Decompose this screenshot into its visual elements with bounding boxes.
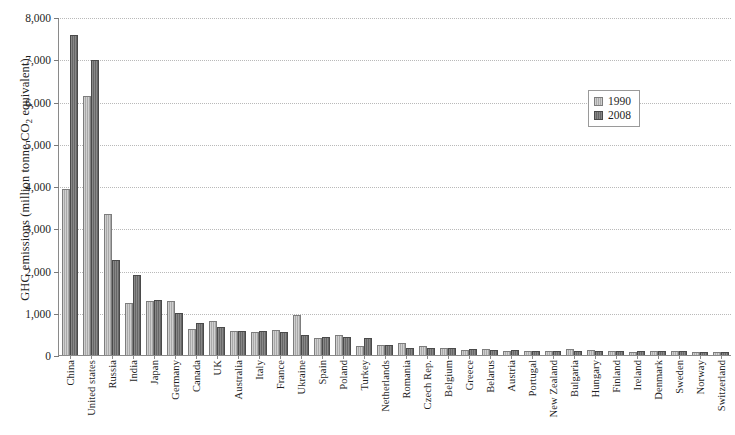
x-axis-label: Spain bbox=[316, 360, 327, 384]
bar-2008 bbox=[70, 35, 78, 355]
y-axis-tick-label: 8,000 bbox=[25, 12, 51, 24]
x-axis-label-cell: Switzerland bbox=[711, 358, 732, 434]
bar-group bbox=[626, 18, 647, 355]
bar-2008 bbox=[574, 351, 582, 355]
bar-1990 bbox=[545, 351, 553, 355]
bar-1990 bbox=[566, 349, 574, 355]
bar-1990 bbox=[251, 332, 259, 355]
bar-series-container bbox=[59, 18, 731, 355]
y-axis-tick-label: 5,000 bbox=[25, 139, 51, 151]
bar-group bbox=[542, 18, 563, 355]
plot-area: 8,0007,0006,0005,0004,0003,0002,0001,000… bbox=[58, 18, 731, 356]
bar-2008 bbox=[259, 331, 267, 355]
x-axis-label: Germany bbox=[169, 360, 180, 400]
x-axis-label-cell: Poland bbox=[332, 358, 353, 434]
bar-1990 bbox=[356, 346, 364, 355]
x-axis-label-cell: New Zealand bbox=[543, 358, 564, 434]
x-axis-label-cell: Portugal bbox=[522, 358, 543, 434]
legend-swatch-2008-icon bbox=[594, 111, 603, 120]
x-axis-label-cell: Greece bbox=[459, 358, 480, 434]
bar-group bbox=[80, 18, 101, 355]
bar-1990 bbox=[692, 352, 700, 355]
x-axis-label: Belgium bbox=[443, 360, 454, 397]
x-axis-label-cell: Denmark bbox=[648, 358, 669, 434]
x-axis-label: Romania bbox=[401, 360, 412, 399]
bar-2008 bbox=[448, 348, 456, 355]
x-axis-label-cell: Belgium bbox=[438, 358, 459, 434]
bar-1990 bbox=[335, 335, 343, 355]
x-axis-label-cell: Ireland bbox=[627, 358, 648, 434]
x-axis-label: Italy bbox=[253, 360, 264, 380]
bar-1990 bbox=[314, 338, 322, 355]
bar-1990 bbox=[440, 348, 448, 355]
bar-1990 bbox=[188, 329, 196, 355]
bar-group bbox=[311, 18, 332, 355]
bar-1990 bbox=[230, 331, 238, 355]
chart-legend: 1990 2008 bbox=[588, 90, 640, 127]
x-axis-label: Switzerland bbox=[716, 360, 727, 411]
x-axis-label-cell: Japan bbox=[143, 358, 164, 434]
x-axis-label-cell: United states bbox=[80, 358, 101, 434]
x-axis-label: Bulgaria bbox=[569, 360, 580, 397]
bar-group bbox=[269, 18, 290, 355]
y-axis-tick-label: 7,000 bbox=[25, 54, 51, 66]
x-axis-label-cell: Czech Rep. bbox=[417, 358, 438, 434]
y-axis-tick-label: 3,000 bbox=[25, 223, 51, 235]
bar-group bbox=[248, 18, 269, 355]
bar-2008 bbox=[553, 351, 561, 355]
legend-label-1990: 1990 bbox=[608, 94, 631, 108]
y-axis-title-subscript: 2 bbox=[24, 119, 34, 124]
bar-1990 bbox=[83, 96, 91, 355]
bar-2008 bbox=[406, 348, 414, 355]
x-axis-label-cell: Sweden bbox=[669, 358, 690, 434]
bar-1990 bbox=[209, 321, 217, 355]
x-axis-label: Norway bbox=[695, 360, 706, 394]
x-axis-label-cell: Netherlands bbox=[374, 358, 395, 434]
legend-swatch-1990-icon bbox=[594, 97, 603, 106]
y-axis-tick-label: 0 bbox=[45, 350, 51, 362]
bar-group bbox=[59, 18, 80, 355]
x-axis-label-cell: Belarus bbox=[480, 358, 501, 434]
x-axis-label-cell: Finland bbox=[606, 358, 627, 434]
bar-group bbox=[227, 18, 248, 355]
bar-group bbox=[689, 18, 710, 355]
x-axis-label-cell: Canada bbox=[185, 358, 206, 434]
x-axis-label-cell: Bulgaria bbox=[564, 358, 585, 434]
bar-2008 bbox=[658, 351, 666, 355]
x-axis-label: Sweden bbox=[674, 360, 685, 394]
bar-group bbox=[185, 18, 206, 355]
bar-group bbox=[416, 18, 437, 355]
bar-group bbox=[143, 18, 164, 355]
x-axis-label: Belarus bbox=[485, 360, 496, 393]
bar-1990 bbox=[272, 330, 280, 355]
x-axis-label: Japan bbox=[148, 360, 159, 384]
bar-2008 bbox=[490, 350, 498, 355]
x-axis-label-cell: Austria bbox=[501, 358, 522, 434]
x-axis-label: India bbox=[127, 360, 138, 382]
x-axis-label-cell: Ukraine bbox=[290, 358, 311, 434]
bar-2008 bbox=[385, 345, 393, 355]
bar-group bbox=[605, 18, 626, 355]
x-axis-label: Denmark bbox=[653, 360, 664, 400]
bar-group bbox=[395, 18, 416, 355]
bar-1990 bbox=[482, 349, 490, 355]
x-axis-label-cell: Australia bbox=[227, 358, 248, 434]
x-axis-label-cell: Hungary bbox=[585, 358, 606, 434]
bar-2008 bbox=[700, 352, 708, 355]
bar-2008 bbox=[679, 351, 687, 355]
bar-1990 bbox=[461, 350, 469, 355]
bar-1990 bbox=[167, 301, 175, 355]
x-axis-label-cell: Spain bbox=[311, 358, 332, 434]
x-axis-label-cell: Germany bbox=[164, 358, 185, 434]
x-axis-label: Australia bbox=[232, 360, 243, 399]
x-axis-line bbox=[58, 355, 731, 356]
bar-1990 bbox=[398, 343, 406, 355]
bar-2008 bbox=[133, 275, 141, 355]
x-axis-label-cell: Romania bbox=[396, 358, 417, 434]
bar-group bbox=[374, 18, 395, 355]
bar-1990 bbox=[608, 351, 616, 355]
x-axis-label: Ukraine bbox=[295, 360, 306, 395]
bar-2008 bbox=[238, 331, 246, 355]
x-axis-label-cell: China bbox=[59, 358, 80, 434]
x-axis-label: New Zealand bbox=[548, 360, 559, 417]
